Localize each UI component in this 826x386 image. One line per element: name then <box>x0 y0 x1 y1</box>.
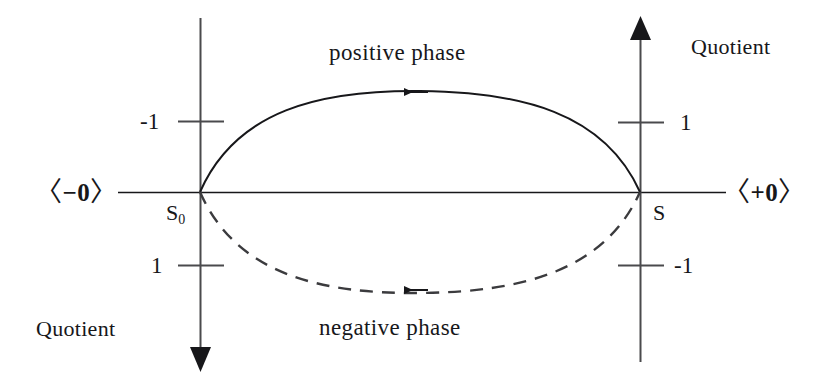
tick-label-right-lower: -1 <box>674 254 693 277</box>
positive-phase-label: positive phase <box>329 41 466 64</box>
tick-label-left-upper: -1 <box>140 110 159 133</box>
angle-bracket-open-right: 〈 <box>723 177 751 207</box>
quotient-phase-diagram: positive phase negative phase Quotient Q… <box>0 0 826 386</box>
quotient-label-bottom-left: Quotient <box>36 318 115 340</box>
negative-phase-curve <box>200 192 640 293</box>
minus-zero-core: −0 <box>63 179 91 206</box>
positive-phase-curve <box>200 91 640 192</box>
left-axis-down-arrowhead <box>190 347 211 372</box>
point-label-s: S <box>653 202 665 224</box>
negative-phase-label: negative phase <box>319 316 461 339</box>
angle-bracket-close-left: 〉 <box>90 177 118 207</box>
minus-zero-bracket-label: 〈−0〉 <box>35 179 118 206</box>
tick-label-right-upper: 1 <box>680 111 692 134</box>
plus-zero-core: +0 <box>751 179 779 206</box>
right-axis-up-arrowhead <box>630 16 651 40</box>
plus-zero-bracket-label: 〈+0〉 <box>723 179 806 206</box>
point-label-s0-base: S <box>166 200 178 225</box>
angle-bracket-open-left: 〈 <box>35 177 63 207</box>
point-label-s0: S0 <box>166 202 185 224</box>
angle-bracket-close-right: 〉 <box>778 177 806 207</box>
quotient-label-top-right: Quotient <box>691 36 770 58</box>
tick-label-left-lower: 1 <box>151 254 163 277</box>
point-label-s0-subscript: 0 <box>178 212 185 227</box>
